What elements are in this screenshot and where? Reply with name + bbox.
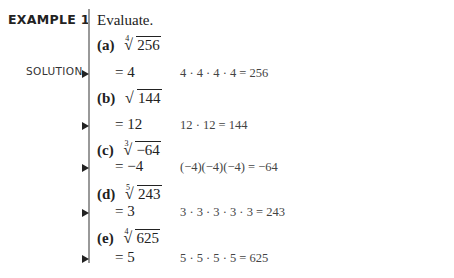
radical-expression: √ 144 [125,90,162,107]
problem-c: (c) 3 √ −64 [97,142,161,159]
radicand: 144 [137,89,162,106]
part-label: (b) [97,90,115,106]
solution-arrow-icon [82,164,89,172]
radical-sign-icon: √ [123,229,132,247]
radical-expression: 4 √ 256 [124,37,161,54]
solution-arrow-icon [82,122,89,130]
answer-d: = 3 [115,203,135,220]
problem-d: (d) 5 √ 243 [97,186,162,203]
radicand: 625 [135,229,160,246]
solution-label: SOLUTION [26,65,83,77]
check-b: 12 · 12 = 144 [180,118,247,133]
answer-a: = 4 [115,64,135,81]
answer-e: = 5 [115,249,135,266]
radical-sign-icon: √ [123,141,132,159]
problem-b: (b) √ 144 [97,90,162,107]
solution-arrow-icon [82,255,89,263]
part-label: (d) [97,186,115,202]
answer-c: = −4 [115,158,143,175]
radical-sign-icon: √ [125,89,134,107]
radicand: 243 [137,185,162,202]
radical-expression: 3 √ −64 [123,142,160,159]
solution-arrow-icon [82,209,89,217]
check-c: (−4)(−4)(−4) = −64 [180,160,278,175]
vertical-rule [88,9,90,263]
part-label: (a) [97,37,115,53]
answer-b: = 12 [115,116,142,133]
check-e: 5 · 5 · 5 · 5 = 625 [180,251,268,266]
part-label: (e) [97,230,114,246]
part-label: (c) [97,142,114,158]
problem-a: (a) 4 √ 256 [97,37,161,54]
check-d: 3 · 3 · 3 · 3 · 3 = 243 [180,205,285,220]
problem-e: (e) 4 √ 625 [97,230,160,247]
radical-expression: 5 √ 243 [125,186,162,203]
solution-arrow-icon [82,70,89,78]
radical-sign-icon: √ [124,36,133,54]
radical-sign-icon: √ [125,185,134,203]
radicand: 256 [136,36,161,53]
example-label: EXAMPLE 1 [8,12,90,27]
radicand: −64 [135,141,160,158]
instruction-text: Evaluate. [97,12,153,29]
radical-expression: 4 √ 625 [123,230,160,247]
check-a: 4 · 4 · 4 · 4 = 256 [180,66,268,81]
